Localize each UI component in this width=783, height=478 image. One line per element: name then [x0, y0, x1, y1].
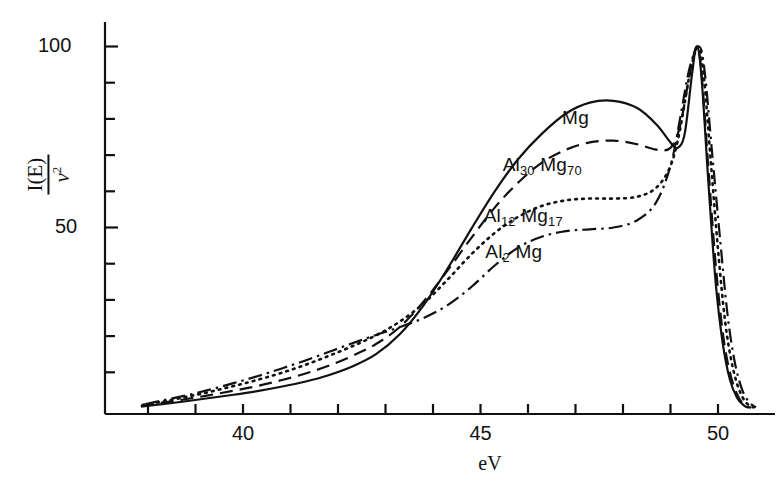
series-line-al30mg70: [141, 46, 751, 407]
y-tick-label-50: 50: [55, 215, 77, 238]
x-tick-label-45: 45: [469, 422, 491, 445]
series-label-al2mg: Al2 Mg: [485, 241, 542, 265]
series-label-mg: Mg: [562, 107, 589, 129]
axis-lines: [105, 22, 775, 414]
x-axis-label: eV: [478, 452, 501, 475]
chart-canvas: [0, 0, 783, 478]
series-line-al2mg: [146, 46, 756, 407]
y-axis-label-numerator: I(E): [24, 155, 49, 195]
y-axis-label-denominator: ν2: [50, 155, 74, 195]
series-lines: [141, 46, 756, 407]
x-tick-label-40: 40: [232, 422, 254, 445]
axis-ticks: [105, 47, 718, 415]
series-line-mg: [141, 47, 749, 408]
y-tick-label-100: 100: [38, 34, 71, 57]
series-label-al12mg17: Al12 Mg17: [484, 205, 563, 229]
series-line-al12mg17: [143, 47, 753, 408]
figure-panel: I(E) ν2 100 50 40 45 50 eV Mg Al30 Mg70 …: [0, 0, 783, 478]
y-axis-label: I(E) ν2: [24, 140, 73, 210]
x-tick-label-50: 50: [707, 422, 729, 445]
series-label-al30mg70: Al30 Mg70: [503, 154, 582, 178]
